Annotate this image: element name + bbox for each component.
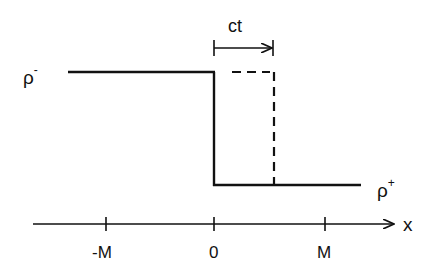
ct-label: ct bbox=[228, 16, 242, 36]
solid-profile bbox=[68, 72, 361, 186]
ct-shift-arrow: ct bbox=[214, 16, 273, 56]
x-axis-label: x bbox=[403, 214, 413, 235]
rho-minus-label: ρ- bbox=[23, 63, 38, 88]
tick-label-neg-m: -M bbox=[92, 243, 112, 262]
x-axis: x -M 0 M bbox=[33, 214, 413, 262]
tick-label-zero: 0 bbox=[209, 243, 218, 262]
step-diagram: ct ρ- ρ+ x -M 0 M bbox=[0, 0, 441, 275]
diagram-canvas: ct ρ- ρ+ x -M 0 M bbox=[0, 0, 441, 275]
tick-label-m: M bbox=[317, 243, 331, 262]
dashed-shifted-profile bbox=[232, 72, 274, 185]
rho-plus-label: ρ+ bbox=[377, 176, 395, 201]
